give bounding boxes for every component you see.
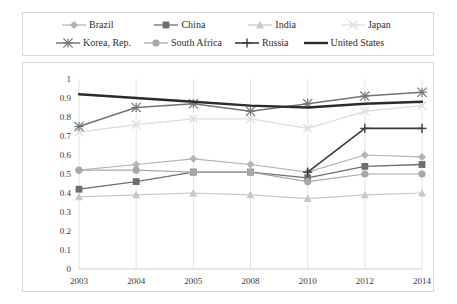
series-marker (133, 178, 140, 185)
legend-swatch-triangle-icon (247, 19, 273, 31)
legend-label: United States (331, 38, 385, 48)
series-marker (418, 170, 425, 177)
legend-swatch-star-icon (55, 37, 81, 49)
x-tick-label: 2012 (345, 277, 385, 286)
x-tick-label: 2005 (173, 277, 213, 286)
legend-swatch-square-icon (153, 19, 179, 31)
legend-entry-russia[interactable]: Russia (234, 37, 289, 49)
legend-swatch-x-icon (340, 19, 366, 31)
x-tick-label: 2010 (288, 277, 328, 286)
series-marker (132, 103, 141, 112)
legend-label: Brazil (89, 20, 113, 30)
x-tick-label: 2014 (402, 277, 442, 286)
legend-marker (70, 21, 78, 29)
series-marker (304, 178, 311, 185)
legend-row: Korea, Rep.South AfricaRussiaUnited Stat… (23, 34, 433, 52)
x-tick-label: 2004 (116, 277, 156, 286)
legend-swatch-circle-icon (143, 37, 169, 49)
series-korea-rep (74, 88, 426, 131)
legend-entry-korea-rep[interactable]: Korea, Rep. (55, 37, 131, 49)
series-marker (419, 161, 426, 168)
y-tick-label: 0.4 (51, 189, 71, 198)
legend-label: India (275, 20, 296, 30)
legend-marker (152, 39, 159, 46)
legend-label: Russia (262, 38, 289, 48)
legend-marker (242, 38, 251, 47)
y-tick-label: 0 (51, 265, 71, 274)
series-marker (189, 155, 197, 163)
data-series-layer (79, 79, 422, 269)
series-marker (361, 163, 368, 170)
y-tick-label: 0.8 (51, 113, 71, 122)
y-tick-label: 0.9 (51, 94, 71, 103)
legend-entry-united-states[interactable]: United States (303, 37, 385, 49)
legend-row: BrazilChinaIndiaJapan (23, 16, 433, 34)
legend-swatch-plus-icon (234, 37, 260, 49)
series-marker (133, 167, 140, 174)
series-marker (417, 88, 426, 97)
legend-entry-japan[interactable]: Japan (340, 19, 391, 31)
y-tick-label: 1 (51, 75, 71, 84)
chart-legend: BrazilChinaIndiaJapan Korea, Rep.South A… (22, 12, 434, 56)
y-tick-label: 0.2 (51, 227, 71, 236)
y-tick-label: 0.7 (51, 132, 71, 141)
legend-label: Korea, Rep. (83, 38, 131, 48)
series-marker (361, 170, 368, 177)
x-tick-label: 2003 (59, 277, 99, 286)
series-marker (361, 151, 369, 159)
y-tick-label: 0.6 (51, 151, 71, 160)
series-marker (360, 92, 369, 101)
series-marker (246, 107, 255, 116)
legend-marker (63, 38, 72, 47)
x-tick-label: 2008 (231, 277, 271, 286)
legend-marker (163, 22, 170, 29)
legend-entry-china[interactable]: China (153, 19, 205, 31)
y-tick-label: 0.1 (51, 246, 71, 255)
series-marker (75, 167, 82, 174)
plot-frame: 00.10.20.30.40.50.60.70.80.91 2003200420… (22, 62, 434, 292)
series-marker (76, 186, 83, 193)
series-marker (247, 161, 255, 169)
y-tick-label: 0.3 (51, 208, 71, 217)
line-chart-figure: BrazilChinaIndiaJapan Korea, Rep.South A… (0, 0, 457, 304)
series-india (75, 189, 426, 202)
legend-swatch-diamond-icon (61, 19, 87, 31)
plot-area (79, 79, 422, 269)
legend-label: China (181, 20, 205, 30)
legend-entry-brazil[interactable]: Brazil (61, 19, 113, 31)
legend-label: South Africa (171, 38, 222, 48)
series-marker (190, 169, 197, 176)
series-marker (418, 153, 426, 161)
legend-swatch-line-icon (303, 37, 329, 49)
y-tick-label: 0.5 (51, 170, 71, 179)
series-marker (417, 124, 426, 133)
legend-label: Japan (368, 20, 391, 30)
legend-entry-india[interactable]: India (247, 19, 296, 31)
series-marker (247, 169, 254, 176)
legend-entry-south-africa[interactable]: South Africa (143, 37, 222, 49)
series-marker (74, 122, 83, 131)
